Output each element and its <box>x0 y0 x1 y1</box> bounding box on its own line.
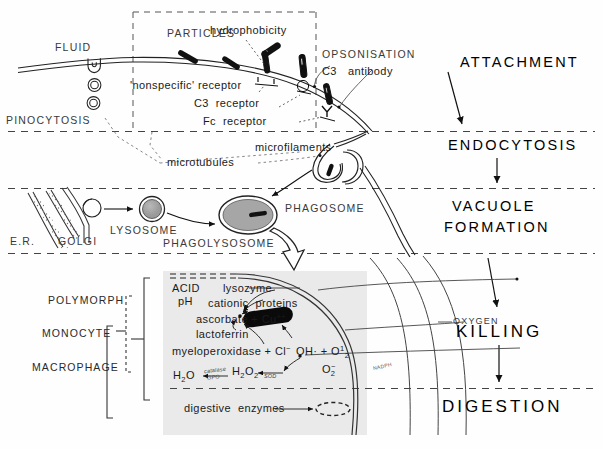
label-microfilaments: microfilaments <box>255 142 332 153</box>
digested-remnant <box>316 403 350 416</box>
golgi-budding-vesicle <box>83 199 101 217</box>
label-antibody: antibody <box>348 66 393 77</box>
label-polymorph: POLYMORPH <box>48 295 124 306</box>
c3-opsonised-particle <box>297 54 316 94</box>
label-lysozyme: lysozyme <box>223 283 272 294</box>
label-digestive-enzymes: digestive enzymes <box>184 403 285 414</box>
stage-label-endocytosis: ENDOCYTOSIS <box>448 138 577 153</box>
label-water: H2O <box>173 370 195 384</box>
label-fluid: FLUID <box>55 42 91 53</box>
lysosome-to-phagolysosome-arrow <box>167 213 215 224</box>
label-ascorbate: ascorbate + Cu++ <box>196 313 286 325</box>
pseudopod-membrane <box>334 131 415 257</box>
microfilaments-leader <box>258 154 322 163</box>
attachment-arrow <box>448 72 462 124</box>
stage-label-digestion: DIGESTION <box>442 398 563 415</box>
vacuole-formation-arrow <box>488 258 497 307</box>
label-sod: SOD <box>264 374 277 380</box>
label-hydrogen-peroxide: H2O2 <box>232 366 258 380</box>
lysosome-organelle <box>140 197 165 222</box>
label-acid: ACID <box>172 283 200 294</box>
stage-label-vacuole: VACUOLE <box>452 199 536 214</box>
label-fc-receptor: Fc receptor <box>203 116 267 127</box>
label-microtubules: microtubules <box>167 157 234 168</box>
label-phagosome: PHAGOSOME <box>285 203 365 214</box>
stage-label-killing: KILLING <box>456 323 542 340</box>
label-lysosome: LYSOSOME <box>110 225 178 236</box>
label-hydroxyl-singlet-oxygen: OH· + O12 <box>296 345 349 360</box>
killing-panel-dashed-top <box>170 274 240 278</box>
label-hydrophobicity: hydrophobicity <box>210 25 287 36</box>
pinocytic-vesicles <box>87 79 101 110</box>
fc-receptor-antibody-particle <box>320 83 341 121</box>
label-pinocytosis: PINOCYTOSIS <box>6 115 91 126</box>
stage-label-formation: FORMATION <box>444 220 550 235</box>
label-superoxide: O−2 <box>322 363 335 378</box>
label-er: E.R. <box>10 236 35 247</box>
label-myeloperoxidase: myeloperoxidase + Cl− <box>172 345 291 357</box>
label-ph: pH <box>178 296 193 307</box>
stage-label-attachment: ATTACHMENT <box>460 55 579 70</box>
label-phagolysosome: PHAGOLYSOSOME <box>163 238 275 249</box>
label-c3: C3 <box>322 66 337 77</box>
phagosome-to-phagolysosome-arrow <box>272 170 312 196</box>
label-cationic-proteins: cationic proteins <box>208 298 298 309</box>
label-nonspecific-receptor: 'nonspecific' receptor <box>130 80 241 91</box>
phagolysosome-organelle <box>219 196 277 234</box>
label-golgi: GOLGI <box>58 236 97 247</box>
phagocytosis-diagram: FLUID PARTICLES hydrophobicity OPSONISAT… <box>0 0 603 449</box>
phagosome-engulfed-particle <box>326 163 335 177</box>
label-lactoferrin: lactoferrin <box>196 329 249 340</box>
phagolysosome-to-killing-open-arrow <box>270 228 304 270</box>
label-opsonisation: OPSONISATION <box>322 49 416 60</box>
label-c3-receptor: C3 receptor <box>194 98 259 109</box>
label-monocyte: MONOCYTE <box>42 328 111 339</box>
label-macrophage: MACROPHAGE <box>32 362 119 373</box>
